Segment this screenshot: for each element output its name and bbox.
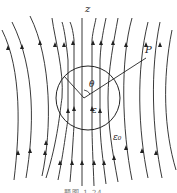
radius-to-p [84,58,146,98]
epsilon0-label: ε₀ [113,133,121,142]
point-p-label: P [145,45,152,55]
dielectric-sphere [56,66,120,130]
figure-caption: 题图 1.24 [64,187,103,193]
field-line [166,30,176,170]
z-axis-label: z [85,4,90,14]
field-line [2,30,18,180]
epsilon-label: ε [92,106,97,115]
theta-label: θ [89,80,94,89]
field-line [124,18,132,180]
field-diagram [0,0,177,193]
angle-arc [84,90,90,94]
field-line [70,22,74,182]
